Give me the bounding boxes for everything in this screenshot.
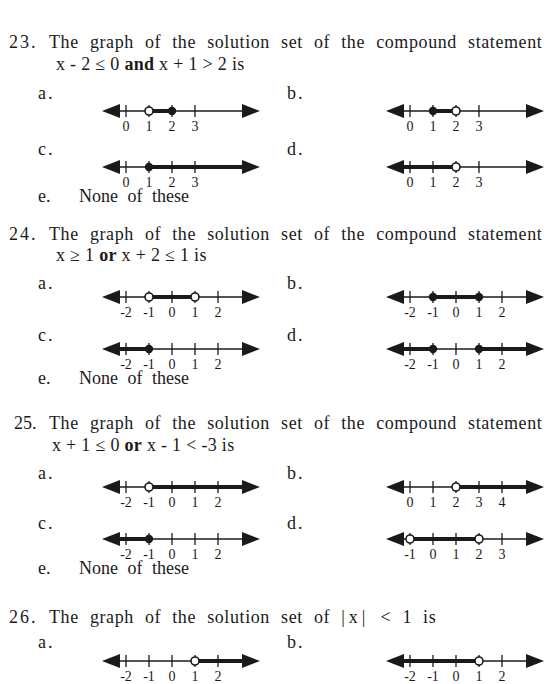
left-arrow-icon xyxy=(386,290,404,304)
tick-label: 2 xyxy=(453,175,460,188)
tick-label: 1 xyxy=(476,305,483,318)
closed-point-icon xyxy=(429,293,437,301)
option-a-label[interactable]: a. xyxy=(38,463,55,484)
tick-label: -1 xyxy=(143,305,155,318)
number-line-25a[interactable]: -2-1012 xyxy=(94,476,266,513)
tick-label: -1 xyxy=(404,547,416,560)
option-d-label[interactable]: d. xyxy=(287,513,305,534)
tick-label: 1 xyxy=(192,495,199,508)
right-arrow-icon xyxy=(242,290,260,304)
number-line-25b[interactable]: 01234 xyxy=(378,476,550,513)
option-b-label[interactable]: b. xyxy=(287,273,305,294)
option-b-label[interactable]: b. xyxy=(287,463,305,484)
option-e[interactable]: e. None of these xyxy=(38,368,189,389)
tick-label: 0 xyxy=(453,357,460,370)
tick-label: -2 xyxy=(404,669,416,682)
tick-label: 4 xyxy=(499,495,506,508)
open-point-icon xyxy=(452,163,460,171)
number-line-23a[interactable]: 0123 xyxy=(94,100,266,137)
open-point-icon xyxy=(452,483,460,491)
right-arrow-icon xyxy=(526,532,544,546)
right-arrow-icon xyxy=(242,104,260,118)
number-line-25d[interactable]: -10123 xyxy=(378,528,550,565)
tick-label: 2 xyxy=(476,547,483,560)
option-b-label[interactable]: b. xyxy=(287,632,305,653)
open-point-icon xyxy=(452,107,460,115)
number-line-24d[interactable]: -2-1012 xyxy=(378,338,550,375)
closed-point-icon xyxy=(429,345,437,353)
option-d-label[interactable]: d. xyxy=(287,325,305,346)
tick-label: 0 xyxy=(407,119,414,132)
tick-label: -2 xyxy=(404,305,416,318)
left-arrow-icon xyxy=(102,342,120,356)
option-d-label[interactable]: d. xyxy=(287,139,305,160)
question-statement: x - 2 ≤ 0 and x + 1 > 2 is xyxy=(56,54,245,75)
tick-label: 2 xyxy=(169,119,176,132)
tick-label: 0 xyxy=(407,175,414,188)
tick-label: 3 xyxy=(192,175,199,188)
tick-label: -1 xyxy=(143,669,155,682)
left-arrow-icon xyxy=(386,532,404,546)
left-arrow-icon xyxy=(386,654,404,668)
option-c-label[interactable]: c. xyxy=(38,325,55,346)
tick-label: -1 xyxy=(427,305,439,318)
tick-label: -2 xyxy=(120,495,132,508)
tick-label: 0 xyxy=(430,547,437,560)
open-point-icon xyxy=(145,483,153,491)
tick-label: -2 xyxy=(120,669,132,682)
number-line-24b[interactable]: -2-1012 xyxy=(378,286,550,323)
tick-label: 3 xyxy=(192,119,199,132)
tick-label: 1 xyxy=(453,547,460,560)
tick-label: 1 xyxy=(192,669,199,682)
number-line-23d[interactable]: 0123 xyxy=(378,156,550,193)
option-a-label[interactable]: a. xyxy=(38,632,55,653)
question-prompt: The graph of the solution set of |x| < 1… xyxy=(49,607,436,628)
open-point-icon xyxy=(406,535,414,543)
tick-label: -2 xyxy=(404,357,416,370)
tick-label: 2 xyxy=(453,119,460,132)
open-point-icon xyxy=(475,535,483,543)
tick-label: 1 xyxy=(430,119,437,132)
option-c-label[interactable]: c. xyxy=(38,139,55,160)
tick-label: 1 xyxy=(192,357,199,370)
right-arrow-icon xyxy=(242,480,260,494)
number-line-26b[interactable]: -2-1012 xyxy=(378,650,550,684)
right-arrow-icon xyxy=(526,480,544,494)
option-e[interactable]: e. None of these xyxy=(38,558,189,579)
tick-label: 3 xyxy=(499,547,506,560)
number-line-24a[interactable]: -2-1012 xyxy=(94,286,266,323)
option-b-label[interactable]: b. xyxy=(287,83,305,104)
right-arrow-icon xyxy=(526,160,544,174)
closed-point-icon xyxy=(168,107,176,115)
question-prompt: The graph of the solution set of the com… xyxy=(49,413,542,434)
tick-label: 2 xyxy=(499,357,506,370)
right-arrow-icon xyxy=(242,654,260,668)
tick-label: 1 xyxy=(476,669,483,682)
tick-label: 2 xyxy=(453,495,460,508)
tick-label: 0 xyxy=(453,669,460,682)
tick-label: 2 xyxy=(215,669,222,682)
left-arrow-icon xyxy=(102,104,120,118)
question-prompt: The graph of the solution set of the com… xyxy=(49,32,542,53)
left-arrow-icon xyxy=(386,342,404,356)
closed-point-icon xyxy=(145,163,153,171)
option-c-label[interactable]: c. xyxy=(38,513,55,534)
left-arrow-icon xyxy=(102,532,120,546)
closed-point-icon xyxy=(429,107,437,115)
tick-label: 1 xyxy=(192,547,199,560)
left-arrow-icon xyxy=(386,160,404,174)
tick-label: 2 xyxy=(215,357,222,370)
number-line-23b[interactable]: 0123 xyxy=(378,100,550,137)
right-arrow-icon xyxy=(242,532,260,546)
tick-label: 2 xyxy=(215,547,222,560)
option-e[interactable]: e. None of these xyxy=(38,186,189,207)
tick-label: 0 xyxy=(169,305,176,318)
number-line-26a[interactable]: -2-1012 xyxy=(94,650,266,684)
option-a-label[interactable]: a. xyxy=(38,83,55,104)
tick-label: 1 xyxy=(430,175,437,188)
tick-label: 0 xyxy=(169,669,176,682)
option-a-label[interactable]: a. xyxy=(38,273,55,294)
tick-label: 3 xyxy=(476,119,483,132)
question-number: 26. xyxy=(9,607,38,628)
tick-label: 0 xyxy=(169,495,176,508)
